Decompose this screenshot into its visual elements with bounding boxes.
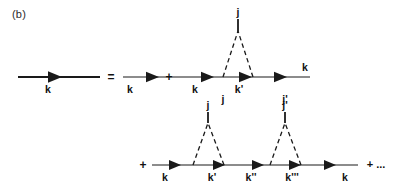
dashed-leg-left-row1	[223, 31, 238, 77]
label-row1-term2-momentum-out: k	[302, 62, 308, 73]
plus-operator-row1: +	[165, 71, 172, 83]
dashed-leg-right-tri2	[285, 123, 301, 165]
feynman-diagram-figure: (b)	[0, 0, 396, 186]
label-row2-momentum-5: k	[342, 172, 348, 183]
label-row1-vertex-left-index: j	[222, 94, 225, 105]
label-row2-momentum-1: k	[162, 172, 168, 183]
dashed-leg-right-row1	[238, 31, 253, 77]
arrowhead-bare	[146, 72, 159, 82]
plus-operator-row2: +	[139, 159, 146, 171]
dashed-leg-right-tri1	[208, 123, 224, 165]
label-row1-term1-momentum: k	[127, 84, 133, 95]
equals-operator: =	[107, 71, 114, 83]
label-row2-momentum-2: k'	[208, 172, 216, 183]
arrowhead-segment-mid	[239, 72, 252, 82]
dashed-leg-left-tri1	[193, 123, 208, 165]
label-row2-momentum-4: k'''	[285, 172, 298, 183]
label-row1-term2-momentum-in: k	[192, 84, 198, 95]
label-row1-apex-index: j	[237, 7, 240, 18]
arrowhead-segment-5	[324, 160, 336, 170]
arrowhead-segment-out	[274, 72, 287, 82]
plus-ellipsis-operator: + ...	[367, 159, 386, 170]
row2-term-diagram	[152, 112, 358, 170]
row1-lhs-propagator	[18, 71, 100, 83]
row1-term2-diagram	[188, 19, 310, 82]
arrowhead-segment-3	[252, 160, 264, 170]
dashed-leg-left-tri2	[270, 123, 285, 165]
label-row2-momentum-3: k''	[246, 172, 257, 183]
arrowhead-segment-1	[169, 160, 181, 170]
label-row1-lhs-momentum: k	[45, 84, 51, 95]
arrowhead-bold	[48, 71, 62, 83]
label-row2-apex-index-2: j'	[282, 100, 287, 111]
arrowhead-segment-in	[201, 72, 214, 82]
row1-term1-propagator	[123, 72, 188, 82]
label-row2-apex-index-1: j	[207, 100, 210, 111]
label-row1-term2-momentum-mid: k'	[235, 84, 243, 95]
